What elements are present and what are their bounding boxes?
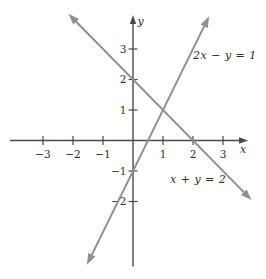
y-tick-label: 1 [120,104,127,116]
y-axis-arrowhead [130,15,136,24]
coordinate-plane: −3−2−1123−2−1123 x y 2x − y = 1 x + y = … [0,0,266,279]
y-tick-label: 3 [120,43,127,55]
graph-line-1-arrowhead [201,16,209,28]
x-tick-label: 1 [160,148,167,160]
line1-equation-label: 2x − y = 1 [192,49,257,62]
graph-figure: −3−2−1123−2−1123 x y 2x − y = 1 x + y = … [0,0,266,279]
y-axis-label: y [137,15,145,28]
graph-line-1-arrowhead [87,253,95,265]
x-axis-label: x [240,143,247,156]
graph-line-2 [73,19,247,196]
x-tick-label: −1 [95,148,110,160]
x-tick-label: −3 [35,148,50,160]
line2-equation-label: x + y = 2 [170,173,226,186]
y-tick-label: −1 [111,165,126,177]
y-tick-label: 2 [120,73,127,85]
x-tick-label: 2 [190,148,197,160]
x-tick-label: 3 [220,148,227,160]
x-tick-label: −2 [65,148,80,160]
